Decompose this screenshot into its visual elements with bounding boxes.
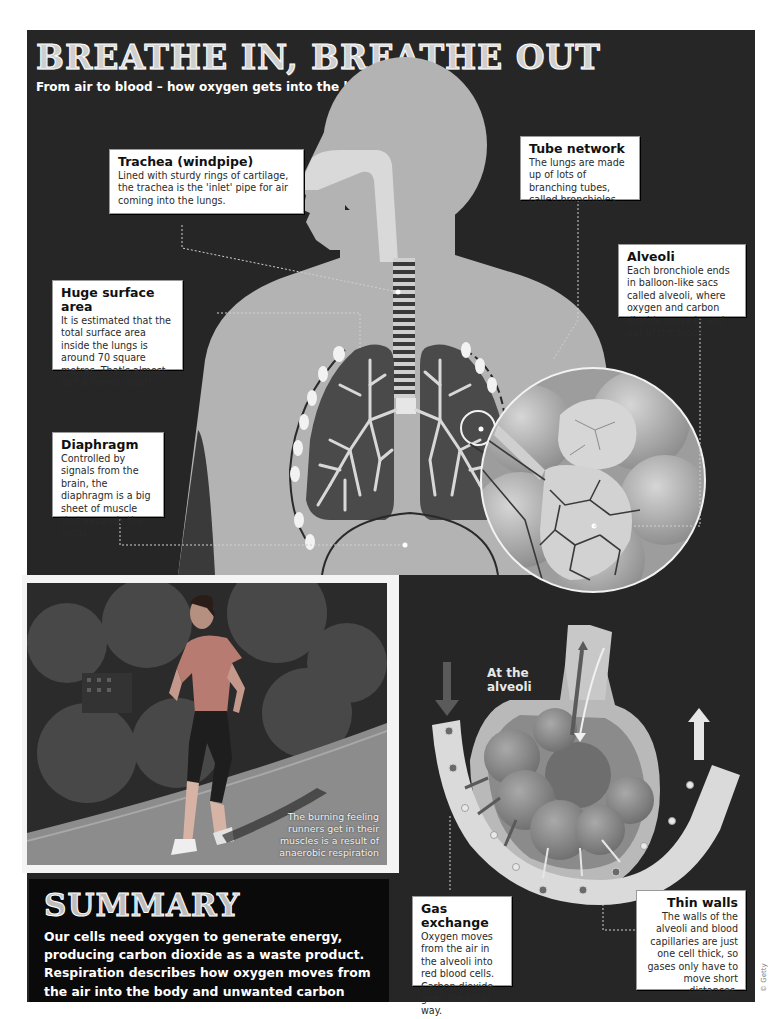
callout-title: Trachea (windpipe) bbox=[118, 155, 296, 169]
photo-caption: The burning feeling runners get in their… bbox=[259, 811, 379, 859]
summary-text: Our cells need oxygen to generate energy… bbox=[44, 928, 384, 1019]
blood-in-arrow bbox=[435, 662, 459, 716]
summary-title: SUMMARY bbox=[44, 887, 240, 923]
callout-body: Controlled by signals from the brain, th… bbox=[61, 453, 156, 540]
callout-surface-area: Huge surface area It is estimated that t… bbox=[52, 280, 183, 370]
callout-diaphragm: Diaphragm Controlled by signals from the… bbox=[52, 432, 164, 517]
callout-thin-walls: Thin walls The walls of the alveoli and … bbox=[636, 890, 746, 990]
summary-box: SUMMARY Our cells need oxygen to generat… bbox=[29, 879, 389, 1002]
callout-gas-exchange: Gas exchange Oxygen moves from the air i… bbox=[412, 896, 512, 986]
callout-trachea: Trachea (windpipe) Lined with sturdy rin… bbox=[109, 149, 304, 214]
blood-out-arrow bbox=[688, 708, 710, 760]
runner-photo: The burning feeling runners get in their… bbox=[27, 583, 387, 865]
callout-title: Huge surface area bbox=[61, 286, 175, 314]
callout-body: It is estimated that the total surface a… bbox=[61, 315, 175, 389]
trachea-rings bbox=[393, 262, 415, 394]
alveoli-cross-section bbox=[432, 625, 740, 905]
callout-title: Gas exchange bbox=[421, 902, 504, 930]
callout-body: Lined with sturdy rings of cartilage, th… bbox=[118, 170, 296, 207]
callout-title: Alveoli bbox=[627, 250, 738, 264]
alveoli-diagram-label: At the alveoli bbox=[487, 666, 547, 694]
callout-tube-network: Tube network The lungs are made up of lo… bbox=[520, 136, 640, 200]
callout-alveoli: Alveoli Each bronchiole ends in balloon-… bbox=[618, 244, 746, 317]
photo-credit: © Getty bbox=[760, 963, 768, 992]
callout-body: The walls of the alveoli and blood capil… bbox=[645, 911, 738, 998]
callout-title: Diaphragm bbox=[61, 438, 156, 452]
callout-body: Oxygen moves from the air in the alveoli… bbox=[421, 931, 504, 1018]
callout-title: Tube network bbox=[529, 142, 632, 156]
callout-title: Thin walls bbox=[645, 896, 738, 910]
callout-body: Each bronchiole ends in balloon-like sac… bbox=[627, 265, 738, 339]
callout-body: The lungs are made up of lots of branchi… bbox=[529, 157, 632, 207]
